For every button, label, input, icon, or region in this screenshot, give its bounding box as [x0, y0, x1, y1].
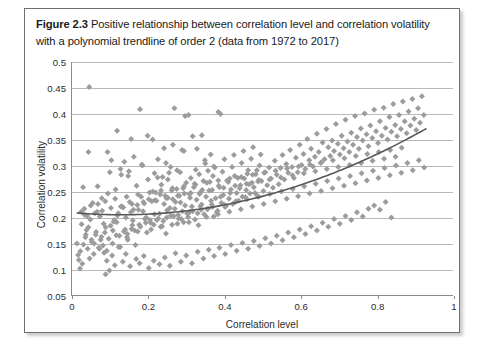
y-axis-tick-label: 0.15 — [47, 239, 66, 250]
figure-container: Figure 2.3 Positive relationship between… — [24, 8, 460, 333]
y-axis-tick-label: 0.45 — [47, 83, 66, 94]
y-axis-title: Correlation volatility — [36, 85, 47, 285]
x-axis-tick-label: 0 — [69, 301, 74, 312]
plot-area: 0.050.10.150.20.250.30.350.40.450.5 00.2… — [71, 62, 453, 296]
x-axis-tick-mark — [148, 296, 149, 299]
x-axis-tick-label: 1 — [451, 301, 456, 312]
polynomial-trendline — [77, 128, 427, 214]
y-axis-tick-label: 0.3 — [53, 161, 66, 172]
x-axis-tick-label: 0.4 — [218, 301, 231, 312]
x-axis-tick-mark — [301, 296, 302, 299]
figure-caption-text: Positive relationship between correlatio… — [36, 18, 430, 47]
y-axis-tick-label: 0.1 — [53, 265, 66, 276]
y-axis-tick-label: 0.25 — [47, 187, 66, 198]
x-axis-tick-label: 0.6 — [295, 301, 308, 312]
y-axis-tick-label: 0.5 — [53, 57, 66, 68]
x-axis-tick-mark — [225, 296, 226, 299]
trendline-layer — [72, 62, 454, 296]
y-axis-tick-label: 0.05 — [47, 291, 66, 302]
y-axis-tick-label: 0.2 — [53, 213, 66, 224]
x-axis-title: Correlation level — [71, 319, 453, 330]
x-axis-tick-label: 0.2 — [142, 301, 155, 312]
chart-plot-wrapper: Correlation volatility 0.050.10.150.20.2… — [25, 47, 461, 332]
x-axis-tick-label: 0.8 — [371, 301, 384, 312]
x-axis-tick-mark — [378, 296, 379, 299]
y-axis-tick-label: 0.35 — [47, 135, 66, 146]
y-axis-tick-label: 0.4 — [53, 109, 66, 120]
figure-caption: Figure 2.3 Positive relationship between… — [36, 16, 448, 50]
figure-label: Figure 2.3 — [36, 18, 88, 30]
x-axis-tick-mark — [72, 296, 73, 299]
x-axis-tick-mark — [454, 296, 455, 299]
